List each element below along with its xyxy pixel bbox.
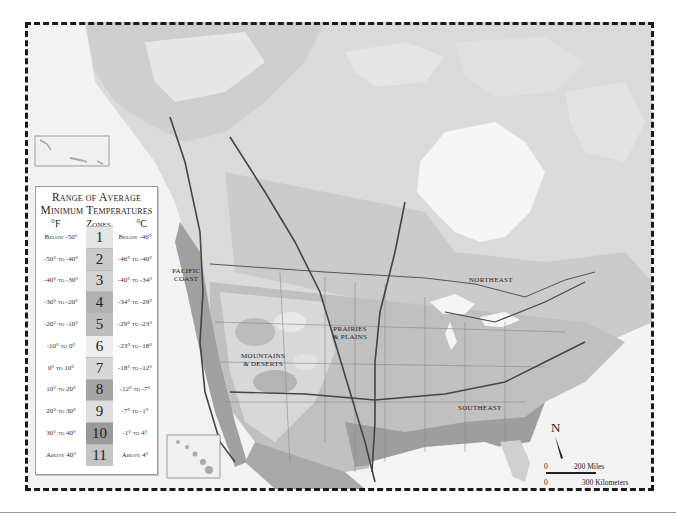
scale-bar	[546, 472, 596, 474]
zone-swatch: 9	[86, 400, 113, 422]
legend-zone-row: 0° to 10°7-18° to -12°	[36, 357, 157, 379]
region-label-line: PACIFIC	[172, 267, 200, 275]
region-label-line: COAST	[172, 275, 200, 283]
zone-c-range: Below -46°	[113, 233, 157, 241]
north-arrow-icon	[553, 434, 567, 464]
region-label-line: MOUNTAINS	[241, 352, 285, 360]
zone-c-range: -18° to -12°	[113, 364, 157, 372]
region-label-line: NORTHEAST	[469, 276, 513, 284]
zone-swatch: 3	[86, 270, 113, 292]
zone-f-range: 10° to 20°	[36, 385, 86, 393]
legend-title-line1: Range of Average	[36, 191, 157, 204]
zone-c-range: -12° to -7°	[113, 385, 157, 393]
north-arrow: N	[551, 420, 560, 436]
zone-swatch: 5	[86, 313, 113, 335]
bottom-divider	[0, 512, 676, 513]
zone-c-range: -29° to -23°	[113, 320, 157, 328]
legend-zone-row: 10° to 20°8-12° to -7°	[36, 379, 157, 401]
legend-zone-row: -10° to 0°6-23° to -18°	[36, 335, 157, 357]
region-label-northeast: NORTHEAST	[469, 276, 513, 284]
region-label-southeast: SOUTHEAST	[458, 404, 502, 412]
legend-zone-row: Below -50°1Below -46°	[36, 226, 157, 248]
zone-f-range: -50° to -40°	[36, 255, 86, 263]
zone-c-range: -46° to -40°	[113, 255, 157, 263]
scale-km-label: 300 Kilometers	[582, 478, 628, 487]
zone-f-range: -10° to 0°	[36, 342, 86, 350]
region-label-line: & DESERTS	[241, 360, 285, 368]
zone-c-range: -23° to -18°	[113, 342, 157, 350]
region-label-pacific-coast: PACIFIC COAST	[172, 267, 200, 283]
legend-zone-row: -30° to -20°4-34° to -29°	[36, 291, 157, 313]
region-label-line: PRAIRIES	[333, 325, 367, 333]
scale-zero-km: 0	[544, 478, 548, 487]
zone-swatch: 11	[86, 444, 113, 466]
legend-zone-row: 30° to 40°10-1° to 4°	[36, 422, 157, 444]
region-label-mountains-deserts: MOUNTAINS & DESERTS	[241, 352, 285, 368]
region-label-line: & PLAINS	[333, 333, 367, 341]
legend-title: Range of Average Minimum Temperatures	[36, 191, 157, 217]
zone-f-range: 20° to 30°	[36, 407, 86, 415]
zone-c-range: -34° to -29°	[113, 298, 157, 306]
zone-f-range: 0° to 10°	[36, 364, 86, 372]
legend-zone-row: 20° to 30°9-7° to -1°	[36, 400, 157, 422]
legend-title-line2: Minimum Temperatures	[36, 204, 157, 217]
zone-f-range: -40° to -30°	[36, 276, 86, 284]
zone-f-range: -30° to -20°	[36, 298, 86, 306]
zone-swatch: 6	[86, 335, 113, 357]
legend-zone-row: -20° to -10°5-29° to -23°	[36, 313, 157, 335]
zone-swatch: 4	[86, 291, 113, 313]
zone-f-range: Above 40°	[36, 451, 86, 459]
zone-c-range: Above 4°	[113, 451, 157, 459]
zone-swatch: 2	[86, 248, 113, 270]
zone-swatch: 10	[86, 422, 113, 444]
zone-swatch: 7	[86, 357, 113, 379]
zone-swatch: 8	[86, 379, 113, 401]
scale-zero-miles: 0	[544, 462, 548, 471]
zone-c-range: -7° to -1°	[113, 407, 157, 415]
legend-zone-row: -40° to -30°3-40° to -34°	[36, 270, 157, 292]
zone-f-range: Below -50°	[36, 233, 86, 241]
hardiness-zone-legend: Range of Average Minimum Temperatures °F…	[35, 186, 158, 475]
zone-swatch: 1	[86, 226, 113, 248]
zone-c-range: -40° to -34°	[113, 276, 157, 284]
zone-f-range: -20° to -10°	[36, 320, 86, 328]
zone-c-range: -1° to 4°	[113, 429, 157, 437]
region-label-line: SOUTHEAST	[458, 404, 502, 412]
north-arrow-label: N	[551, 420, 560, 435]
region-label-prairies-plains: PRAIRIES & PLAINS	[333, 325, 367, 341]
legend-zone-row: -50° to -40°2-46° to -40°	[36, 248, 157, 270]
zone-f-range: 30° to 40°	[36, 429, 86, 437]
legend-zone-list: Below -50°1Below -46° -50° to -40°2-46° …	[36, 226, 157, 466]
scale-miles-label: 200 Miles	[574, 462, 604, 471]
legend-zone-row: Above 40°11Above 4°	[36, 444, 157, 466]
